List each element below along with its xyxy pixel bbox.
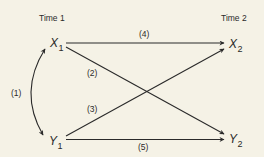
node-y2: Y2 xyxy=(229,132,243,149)
x1-base: X xyxy=(49,36,59,50)
time-1-label: Time 1 xyxy=(39,13,65,23)
path-2-label: (2) xyxy=(87,68,98,78)
x1-subscript: 1 xyxy=(59,43,64,53)
diagram-svg: Time 1 Time 2 X1 Y1 X2 Y2 (1) (2) (3) (4… xyxy=(0,0,264,157)
path-4-label: (4) xyxy=(139,29,150,39)
path-3-label: (3) xyxy=(87,104,98,114)
path-2-arrow xyxy=(66,47,224,134)
x2-subscript: 2 xyxy=(238,44,243,54)
svg-text:Y1: Y1 xyxy=(49,134,63,151)
svg-text:X1: X1 xyxy=(49,36,64,53)
y2-subscript: 2 xyxy=(238,139,243,149)
svg-text:Y2: Y2 xyxy=(229,132,243,149)
path-1-curved-arrow xyxy=(31,49,45,135)
path-1-label: (1) xyxy=(11,88,22,98)
y1-subscript: 1 xyxy=(58,141,63,151)
node-y1: Y1 xyxy=(49,134,63,151)
path-5-label: (5) xyxy=(138,142,149,152)
node-x1: X1 xyxy=(49,36,64,53)
path-3-arrow xyxy=(66,49,224,136)
svg-text:X2: X2 xyxy=(228,37,243,54)
x2-base: X xyxy=(228,37,238,51)
cross-lagged-panel-diagram: Time 1 Time 2 X1 Y1 X2 Y2 (1) (2) (3) (4… xyxy=(0,0,264,157)
node-x2: X2 xyxy=(228,37,243,54)
time-2-label: Time 2 xyxy=(221,13,247,23)
